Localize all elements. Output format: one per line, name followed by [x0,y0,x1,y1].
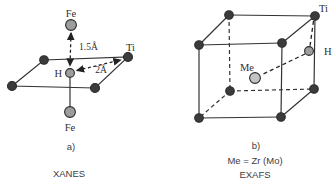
fe-bottom-atom [65,107,76,118]
cube-corner-atom [310,85,319,94]
hydrogen-label: H [324,46,332,57]
metal-label: Me [240,62,254,73]
fe-bottom-label: Fe [65,122,76,133]
titanium-atom [124,53,133,62]
exafs-caption: EXAFS [239,169,270,180]
ti-h-distance-value: 2Å [95,64,107,75]
exafs-diagram: Ti H Me b) Me = Zr (Mo) EXAFS [195,3,332,180]
xanes-caption: XANES [53,168,85,179]
hydrogen-atom [305,47,314,56]
hydrogen-label: H [54,68,62,79]
titanium-label: Ti [126,42,135,53]
cube-corner-titanium-atom [311,12,320,21]
fe-h-distance-value: 1.5Å [79,41,98,52]
plane-corner-atom [91,84,100,93]
plane-corner-atom [8,82,17,91]
xanes-diagram: Fe Fe H Ti 1.5Å 2Å a) XANES [8,8,136,179]
cube-corner-atom [226,87,235,96]
cube-corner-atom [277,113,286,122]
figure-canvas: Fe Fe H Ti 1.5Å 2Å a) XANES [0,0,335,186]
fe-top-label: Fe [66,8,77,19]
cube-corner-atom [195,41,204,50]
fe-h-distance-arrow [70,33,71,66]
hydrogen-atom [66,69,75,78]
cube-corner-atom [278,39,287,48]
panel-b-label: b) [252,140,260,151]
cube-corner-atom [195,114,204,123]
structure-figure: Fe Fe H Ti 1.5Å 2Å a) XANES [0,0,335,186]
titanium-label: Ti [319,3,328,14]
panel-a-label: a) [67,141,75,152]
plane-corner-atom [40,56,49,65]
metal-center-atom [250,73,261,84]
cube-corner-atom [225,11,234,20]
me-definition: Me = Zr (Mo) [227,155,282,166]
fe-top-atom [66,20,77,31]
